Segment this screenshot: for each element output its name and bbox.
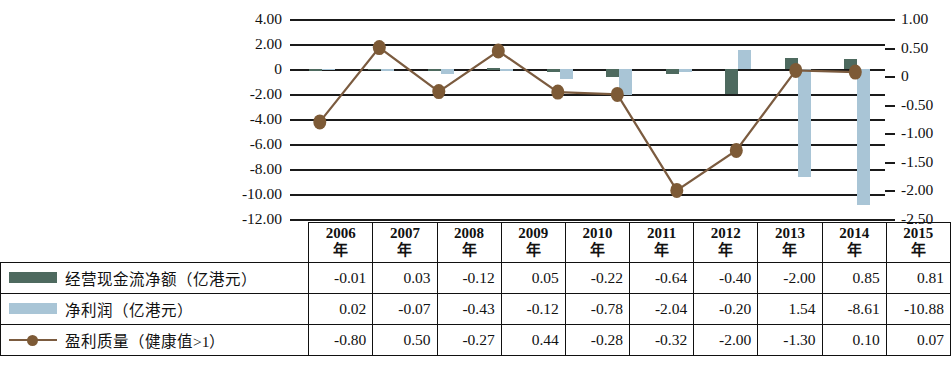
left-axis-tick-label: -6.00 bbox=[222, 136, 282, 152]
right-axis-tick bbox=[885, 219, 895, 221]
table-row: 净利润（亿港元）0.02-0.07-0.43-0.12-0.78-2.04-0.… bbox=[1, 293, 951, 324]
year-number: 2007 bbox=[373, 225, 436, 242]
left-axis-tick-label: 0 bbox=[222, 61, 282, 77]
table-row: 经营现金流净额（亿港元）-0.010.03-0.120.05-0.22-0.64… bbox=[1, 262, 951, 293]
right-axis-tick-label: 0.50 bbox=[901, 40, 951, 56]
profit-quality-marker bbox=[551, 85, 564, 100]
table-cell-value: 0.02 bbox=[309, 293, 373, 324]
year-column-header: 2011年 bbox=[630, 223, 694, 263]
profit-quality-marker bbox=[730, 143, 743, 158]
table-cell-value: 0.03 bbox=[373, 262, 437, 293]
year-unit: 年 bbox=[309, 242, 372, 259]
table-cell-value: -0.22 bbox=[565, 262, 629, 293]
profit-quality-marker bbox=[611, 87, 624, 102]
table-cell-value: 0.85 bbox=[822, 262, 886, 293]
table-cell-value: -0.32 bbox=[630, 324, 694, 355]
year-column-header: 2007年 bbox=[373, 223, 437, 263]
right-axis-tick-label: 0 bbox=[901, 68, 951, 84]
data-table-container: 2006年2007年2008年2009年2010年2011年2012年2013年… bbox=[0, 222, 951, 356]
year-unit: 年 bbox=[630, 242, 693, 259]
series-label: 经营现金流净额（亿港元） bbox=[65, 271, 257, 288]
profit-quality-polyline bbox=[320, 48, 856, 191]
year-unit: 年 bbox=[373, 242, 436, 259]
right-axis-tick bbox=[885, 48, 895, 50]
table-cell-value: -8.61 bbox=[822, 293, 886, 324]
table-cell-value: 0.44 bbox=[501, 324, 565, 355]
year-column-header: 2006年 bbox=[309, 223, 373, 263]
year-number: 2010 bbox=[566, 225, 629, 242]
right-axis-tick bbox=[885, 105, 895, 107]
left-axis-tick-label: -8.00 bbox=[222, 161, 282, 177]
table-body: 经营现金流净额（亿港元）-0.010.03-0.120.05-0.22-0.64… bbox=[1, 262, 951, 355]
year-unit: 年 bbox=[823, 242, 886, 259]
year-unit: 年 bbox=[566, 242, 629, 259]
series-legend-cell: 净利润（亿港元） bbox=[1, 293, 309, 324]
year-number: 2006 bbox=[309, 225, 372, 242]
table-cell-value: 1.54 bbox=[758, 293, 822, 324]
year-number: 2013 bbox=[758, 225, 821, 242]
year-number: 2014 bbox=[823, 225, 886, 242]
right-axis-tick-label: -2.00 bbox=[901, 182, 951, 198]
table-cell-value: -0.12 bbox=[437, 262, 501, 293]
year-number: 2008 bbox=[438, 225, 501, 242]
year-column-header: 2013年 bbox=[758, 223, 822, 263]
table-cell-value: -10.88 bbox=[886, 293, 950, 324]
left-axis-tick-label: -10.00 bbox=[222, 186, 282, 202]
profit-quality-marker bbox=[432, 84, 445, 99]
right-axis-tick bbox=[885, 19, 895, 21]
chart-page: 4.002.000-2.00-4.00-6.00-8.00-10.00-12.0… bbox=[0, 0, 951, 382]
left-axis-tick-label: -4.00 bbox=[222, 111, 282, 127]
gridline bbox=[290, 219, 885, 221]
profit-quality-marker bbox=[313, 114, 326, 129]
table-cell-value: 0.10 bbox=[822, 324, 886, 355]
series-legend-cell: 盈利质量（健康值>1） bbox=[1, 324, 309, 355]
table-cell-value: -0.28 bbox=[565, 324, 629, 355]
right-axis-tick-label: -0.50 bbox=[901, 97, 951, 113]
profit-quality-marker bbox=[492, 44, 505, 59]
series-legend-cell: 经营现金流净额（亿港元） bbox=[1, 262, 309, 293]
table-cell-value: -0.64 bbox=[630, 262, 694, 293]
year-column-header: 2009年 bbox=[501, 223, 565, 263]
profit-quality-line-series bbox=[290, 19, 885, 219]
table-cell-value: -1.30 bbox=[758, 324, 822, 355]
table-cell-value: -0.40 bbox=[694, 262, 758, 293]
right-axis-tick bbox=[885, 190, 895, 192]
table-cell-value: -0.27 bbox=[437, 324, 501, 355]
right-axis-tick bbox=[885, 162, 895, 164]
table-cell-value: -0.20 bbox=[694, 293, 758, 324]
table-cell-value: 0.81 bbox=[886, 262, 950, 293]
table-cell-value: -0.12 bbox=[501, 293, 565, 324]
table-cell-value: 0.50 bbox=[373, 324, 437, 355]
year-number: 2009 bbox=[502, 225, 565, 242]
table-cell-value: -0.78 bbox=[565, 293, 629, 324]
table-cell-value: -2.04 bbox=[630, 293, 694, 324]
profit-quality-marker bbox=[789, 63, 802, 78]
year-unit: 年 bbox=[694, 242, 757, 259]
plot-area bbox=[290, 19, 885, 219]
year-column-header: 2015年 bbox=[886, 223, 950, 263]
left-axis-tick-label: -2.00 bbox=[222, 86, 282, 102]
table-cell-value: 0.05 bbox=[501, 262, 565, 293]
year-unit: 年 bbox=[887, 242, 950, 259]
series-label: 净利润（亿港元） bbox=[65, 302, 193, 319]
profit-quality-marker bbox=[373, 40, 386, 55]
data-table: 2006年2007年2008年2009年2010年2011年2012年2013年… bbox=[0, 222, 951, 356]
legend-header-cell bbox=[1, 223, 309, 263]
series-label: 盈利质量（健康值>1） bbox=[65, 333, 226, 350]
table-cell-value: -0.80 bbox=[309, 324, 373, 355]
year-number: 2015 bbox=[887, 225, 950, 242]
year-number: 2011 bbox=[630, 225, 693, 242]
year-unit: 年 bbox=[502, 242, 565, 259]
left-axis-tick-label: 2.00 bbox=[222, 36, 282, 52]
year-number: 2012 bbox=[694, 225, 757, 242]
year-unit: 年 bbox=[438, 242, 501, 259]
right-axis-tick-label: -1.00 bbox=[901, 125, 951, 141]
profit-quality-marker bbox=[849, 65, 862, 80]
year-column-header: 2008年 bbox=[437, 223, 501, 263]
table-cell-value: -0.43 bbox=[437, 293, 501, 324]
line-marker-swatch-icon bbox=[9, 334, 57, 346]
chart-area: 4.002.000-2.00-4.00-6.00-8.00-10.00-12.0… bbox=[0, 0, 951, 222]
blue-bar-swatch-icon bbox=[9, 303, 57, 314]
table-cell-value: 0.07 bbox=[886, 324, 950, 355]
year-column-header: 2014年 bbox=[822, 223, 886, 263]
